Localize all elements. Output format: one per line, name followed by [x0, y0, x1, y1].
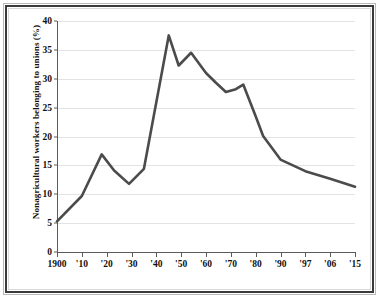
x-tick-mark — [181, 252, 182, 257]
x-tick-mark — [355, 252, 356, 257]
x-tick-mark — [330, 252, 331, 257]
y-tick-label: 35 — [43, 45, 53, 55]
y-tick-label: 10 — [43, 189, 53, 199]
x-tick-mark — [156, 252, 157, 257]
x-tick-mark — [57, 252, 58, 257]
x-tick-label: '40 — [150, 259, 162, 269]
y-tick-label: 20 — [43, 132, 53, 142]
y-axis-title: Nonagricultural workers belonging to uni… — [31, 7, 41, 237]
x-tick-label: '50 — [175, 259, 187, 269]
x-tick-mark — [231, 252, 232, 257]
y-tick-label: 15 — [43, 160, 53, 170]
figure-root: Nonagricultural workers belonging to uni… — [0, 0, 383, 302]
x-tick-mark — [281, 252, 282, 257]
x-tick-label: '90 — [274, 259, 286, 269]
chart-canvas: Nonagricultural workers belonging to uni… — [9, 9, 370, 289]
x-tick-label: '30 — [125, 259, 137, 269]
x-tick-label: '10 — [76, 259, 88, 269]
plot-area: 0510152025303540 1900'10'20'30'40'50'60'… — [57, 21, 355, 252]
x-tick-mark — [82, 252, 83, 257]
x-tick-mark — [256, 252, 257, 257]
x-tick-mark — [206, 252, 207, 257]
x-tick-label: '70 — [225, 259, 237, 269]
y-tick-label: 25 — [43, 103, 53, 113]
y-tick-label: 30 — [43, 74, 53, 84]
y-tick-label: 0 — [47, 247, 52, 257]
x-tick-mark — [305, 252, 306, 257]
x-tick-label: '60 — [200, 259, 212, 269]
x-tick-label: 1900 — [48, 259, 67, 269]
x-tick-mark — [107, 252, 108, 257]
x-tick-label: '97 — [299, 259, 311, 269]
x-tick-mark — [132, 252, 133, 257]
y-tick-label: 40 — [43, 16, 53, 26]
x-tick-label: '20 — [101, 259, 113, 269]
series-polyline-union-membership — [57, 35, 355, 221]
data-line-series — [57, 21, 355, 252]
y-tick-label: 5 — [47, 218, 52, 228]
x-tick-label: '80 — [250, 259, 262, 269]
x-tick-label: '15 — [349, 259, 361, 269]
x-tick-label: '06 — [324, 259, 336, 269]
